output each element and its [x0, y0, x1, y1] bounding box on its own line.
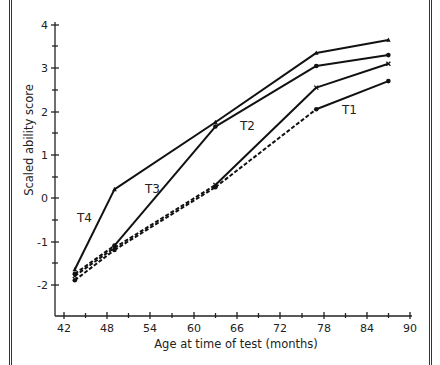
series-segment — [114, 127, 215, 246]
series-segment — [316, 64, 388, 88]
series-label-t1: T1 — [341, 103, 357, 117]
series-segment — [75, 248, 115, 276]
x-tick-label: 66 — [230, 322, 244, 335]
y-tick-label: 1 — [41, 149, 48, 162]
x-tick-label: 48 — [100, 322, 114, 335]
data-point-dot-icon — [213, 124, 218, 129]
series-segment — [215, 66, 316, 127]
y-tick-label: 4 — [41, 19, 48, 32]
y-tick-label: 0 — [41, 192, 48, 205]
x-tick-label: 60 — [187, 322, 201, 335]
y-tick-label: 2 — [41, 106, 48, 119]
series-label-t2: T2 — [239, 119, 255, 133]
data-point-dot-icon — [386, 79, 391, 84]
x-axis — [55, 312, 412, 319]
series-segment — [215, 109, 316, 187]
y-tick-label: 3 — [41, 62, 48, 75]
series-segment — [316, 55, 388, 66]
data-point-dot-icon — [386, 53, 391, 58]
x-tick-label: 42 — [57, 322, 71, 335]
series-segment — [114, 185, 215, 248]
x-tick-label: 54 — [143, 322, 157, 335]
y-tick-labels: 4 3 2 1 0 -1 -2 — [37, 19, 48, 292]
series-segment — [75, 189, 115, 269]
data-point-dot-icon — [73, 278, 78, 283]
series-layer — [73, 37, 391, 282]
series-segment — [316, 40, 388, 53]
y-tick-label: -2 — [37, 279, 48, 292]
series-label-t4: T4 — [76, 211, 92, 225]
series-segment — [75, 246, 115, 274]
series-t3 — [73, 53, 391, 276]
series-label-t3: T3 — [144, 182, 160, 196]
chart: 4 3 2 1 0 -1 -2 42 48 54 60 66 72 78 84 … — [0, 0, 440, 365]
series-segment — [215, 88, 316, 185]
y-axis-title: Scaled ability score — [22, 84, 36, 196]
x-tick-label: 84 — [360, 322, 374, 335]
x-tick-label: 78 — [317, 322, 331, 335]
data-point-dot-icon — [112, 248, 117, 253]
x-tick-label: 72 — [273, 322, 287, 335]
x-axis-title: Age at time of test (months) — [154, 337, 318, 351]
series-segment — [75, 250, 115, 280]
data-point-dot-icon — [213, 185, 218, 190]
series-segment — [114, 187, 215, 250]
x-tick-label: 90 — [403, 322, 417, 335]
y-tick-label: -1 — [37, 236, 48, 249]
series-segment — [215, 53, 316, 122]
series-t4 — [73, 37, 391, 271]
y-axis — [51, 22, 59, 316]
x-tick-labels: 42 48 54 60 66 72 78 84 90 — [57, 322, 417, 335]
data-point-dot-icon — [314, 107, 319, 112]
series-segment — [114, 122, 215, 189]
data-point-dot-icon — [314, 64, 319, 69]
